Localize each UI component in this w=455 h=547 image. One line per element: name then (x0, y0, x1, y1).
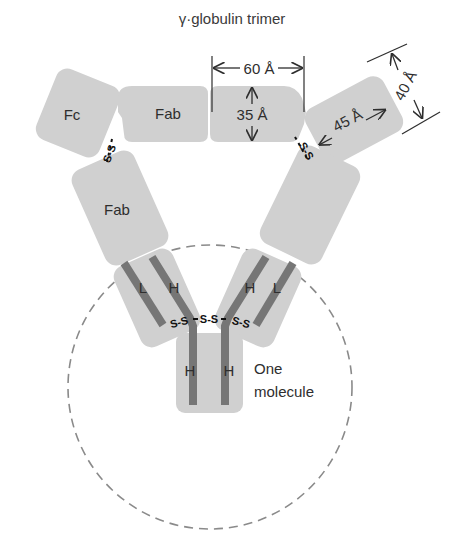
heavy-stem-right-label: H (224, 362, 235, 379)
light-chain-right-label: L (273, 279, 281, 296)
svg-text:60 Å: 60 Å (244, 60, 275, 77)
diagram-title: γ·globulin trimer (179, 10, 286, 27)
fab-left-label: Fab (104, 201, 130, 218)
disulfide-hinge: S-S (200, 313, 218, 325)
heavy-chain-left-label: H (169, 279, 180, 296)
fab-top-label: Fab (155, 105, 181, 122)
one-molecule-label-line1: One (254, 360, 282, 377)
svg-text:40 Å: 40 Å (390, 68, 419, 103)
fc-label: Fc (64, 106, 81, 123)
svg-text:35 Å: 35 Å (237, 106, 268, 123)
heavy-stem-left-label: H (185, 362, 196, 379)
heavy-chain-right-label: H (245, 279, 256, 296)
light-chain-left-label: L (139, 279, 147, 296)
gamma-globulin-trimer-diagram: γ·globulin trimer Fc Fab Fab S-S S-S 60 … (0, 0, 455, 547)
one-molecule-label-line2: molecule (254, 383, 314, 400)
fab-right-lower-domain (256, 142, 364, 269)
